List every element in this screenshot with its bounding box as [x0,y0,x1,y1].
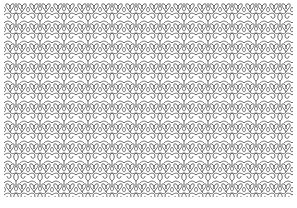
lace-pattern [4,3,293,197]
pattern-canvas [0,0,297,208]
lace-fill [4,3,293,197]
